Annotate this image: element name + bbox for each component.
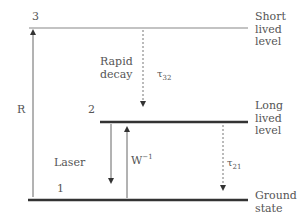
w-symbol: W <box>131 154 142 167</box>
w-superscript: −1 <box>142 153 152 161</box>
tau-32-subscript: 32 <box>163 74 172 82</box>
absorption-label-w: W−1 <box>131 151 153 167</box>
level-1-number: 1 <box>57 183 64 195</box>
tau-32-label: τ32 <box>157 68 171 84</box>
level-3-number: 3 <box>32 11 39 23</box>
ground-state-description: Ground state <box>255 190 297 215</box>
tau-21-label: τ21 <box>227 157 241 173</box>
level-2-number: 2 <box>88 104 95 116</box>
tau-21-subscript: 21 <box>233 163 242 171</box>
level-2-description: Long lived level <box>255 100 283 138</box>
laser-label: Laser <box>54 157 85 169</box>
level-3-description: Short lived level <box>255 11 286 49</box>
rapid-decay-label: Rapid decay <box>100 56 133 81</box>
pump-label-r: R <box>17 104 25 116</box>
